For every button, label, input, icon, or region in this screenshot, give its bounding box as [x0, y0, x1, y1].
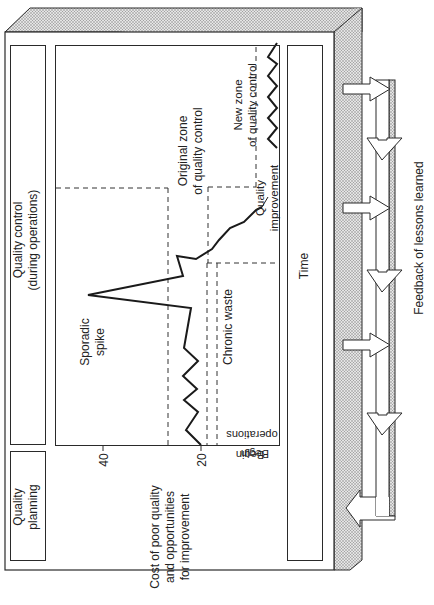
y-tick-40: 40 [97, 450, 111, 470]
chronic-waste-label: Chronic waste [221, 282, 237, 372]
time-axis-label: Time [297, 241, 313, 291]
y-tick-20: 20 [195, 450, 209, 470]
feedback-label: Feedback of lessons learned [412, 153, 428, 323]
original-zone-label: Original zone of quality control [176, 96, 210, 206]
time-axis-box [287, 45, 323, 561]
quality-improvement-label: Quality improvement [253, 163, 283, 233]
new-zone-label: New zone of quality control [231, 50, 265, 160]
quality-planning-label: Quality planning [11, 452, 45, 562]
operations-label: operations [222, 427, 282, 441]
arrow-down-1 [367, 138, 402, 160]
quality-control-label: Quality control (during operations) [11, 165, 45, 315]
arrow-down-3 [367, 413, 402, 435]
y-axis-title: Cost of poor quality and opportunities f… [148, 472, 196, 602]
sporadic-spike-label: Sporadic spike [78, 312, 112, 372]
arrow-down-2 [367, 270, 402, 292]
begin-label: Begin [230, 447, 270, 461]
